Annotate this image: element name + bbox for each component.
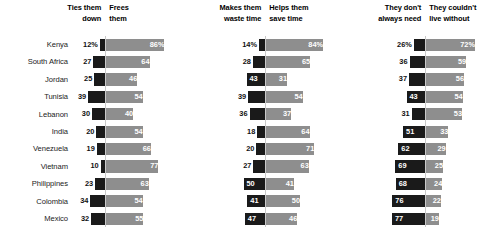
panel-time-use-row: 4331 (205, 71, 347, 88)
chart-row: Venezuela196620716229 (0, 140, 476, 157)
panel-header-left-label: Ties them down (53, 3, 105, 24)
panel-time-freedom-row: 12%86% (45, 36, 187, 53)
bar-value-left: 31 (382, 108, 413, 120)
panel-necessity-row: 5133 (365, 123, 481, 140)
panel-header-left-label: Makes them waste time (213, 3, 265, 24)
panel-header-right-label: They couldn't live without (425, 3, 481, 24)
bar-value-left: 39 (58, 91, 89, 103)
bar-value-right: 25 (426, 160, 446, 172)
panel-necessity-row: 3756 (365, 71, 481, 88)
bar-value-right: 65 (266, 56, 313, 68)
bar-value-right: 40 (106, 108, 136, 120)
bar-left-time-freedom (96, 126, 105, 138)
bar-value-right: 31 (266, 73, 290, 85)
panel-time-use-row: 2071 (205, 140, 347, 157)
bar-left-time-freedom (94, 73, 105, 85)
bar-value-right: 63 (266, 160, 312, 172)
bar-value-right: 41 (266, 178, 297, 190)
bar-value-left: 19 (67, 143, 98, 155)
panel-time-use-row: 14%84% (205, 36, 347, 53)
bar-left-time-freedom (88, 91, 105, 103)
bar-value-right: 72% (426, 39, 478, 51)
chart-row: Mexico325547467719 (0, 210, 476, 227)
bar-value-left: 68 (396, 178, 428, 190)
bar-value-right: 54 (106, 91, 146, 103)
bar-value-left: 41 (247, 195, 268, 207)
bar-value-right: 63 (106, 178, 152, 190)
bar-left-necessity (414, 39, 425, 51)
panel-time-freedom-row: 3954 (45, 88, 187, 105)
bar-value-left: 47 (245, 213, 268, 225)
bar-value-left: 43 (247, 73, 268, 85)
panel-header-time-use: Makes them waste timeHelps them save tim… (213, 3, 325, 33)
bar-value-right: 29 (426, 143, 449, 155)
panel-time-use-row: 3954 (205, 88, 347, 105)
bar-left-necessity (410, 56, 425, 68)
chart-row: Vietnam107727636925 (0, 158, 476, 175)
bar-value-right: 37 (266, 108, 294, 120)
bar-left-time-freedom (91, 213, 105, 225)
bar-value-right: 84% (266, 39, 326, 51)
bar-value-right: 77 (106, 160, 161, 172)
panel-time-use-row: 4150 (205, 193, 347, 210)
bar-value-left: 39 (218, 91, 249, 103)
bar-value-right: 71 (266, 143, 317, 155)
bar-value-right: 54 (426, 91, 466, 103)
bar-left-time-use (250, 108, 265, 120)
bar-left-time-use (253, 160, 265, 172)
panel-time-use-row: 2763 (205, 158, 347, 175)
panel-necessity-row: 7622 (365, 193, 481, 210)
bar-value-left: 10 (71, 160, 102, 172)
panel-necessity-row: 26%72% (365, 36, 481, 53)
panel-time-freedom-row: 2363 (45, 175, 187, 192)
bar-left-time-freedom (90, 195, 105, 207)
chart-header-band: Ties them downFrees themMakes them waste… (0, 0, 476, 36)
bar-left-time-freedom (97, 143, 105, 155)
panel-time-use-row: 5041 (205, 175, 347, 192)
panel-time-use-row: 4746 (205, 210, 347, 227)
bar-value-right: 22 (426, 195, 444, 207)
bar-value-left: 14% (229, 39, 260, 51)
bar-value-right: 54 (106, 126, 146, 138)
bar-left-necessity (409, 73, 425, 85)
bar-value-right: 46 (266, 213, 300, 225)
bar-left-time-use (257, 126, 265, 138)
bar-value-left: 43 (407, 91, 428, 103)
chart-row: Philippines236350416824 (0, 175, 476, 192)
panel-header-right-label: Frees them (105, 3, 165, 24)
panel-header-time-freedom: Ties them downFrees them (53, 3, 165, 33)
bar-value-left: 18 (227, 126, 258, 138)
bar-value-left: 27 (63, 56, 94, 68)
bar-value-left: 77 (392, 213, 428, 225)
bar-value-right: 19 (426, 213, 442, 225)
bar-value-right: 86% (106, 39, 167, 51)
panel-header-left-label: They don't always need (373, 3, 425, 24)
panel-header-right-label: Helps them save time (265, 3, 325, 24)
bar-left-time-use (253, 56, 265, 68)
bar-value-left: 20 (226, 143, 257, 155)
bar-value-left: 76 (392, 195, 428, 207)
chart-row: India205418645133 (0, 123, 476, 140)
chart-row: Colombia345441507622 (0, 193, 476, 210)
bar-value-left: 26% (384, 39, 415, 51)
panel-time-use-row: 2865 (205, 53, 347, 70)
bar-value-left: 20 (66, 126, 97, 138)
panel-necessity-row: 3153 (365, 106, 481, 123)
bar-left-time-freedom (93, 56, 105, 68)
bar-value-left: 30 (62, 108, 93, 120)
bar-value-right: 66 (106, 143, 154, 155)
panel-necessity-row: 3659 (365, 53, 481, 70)
bar-value-right: 46 (106, 73, 140, 85)
bar-value-left: 34 (60, 195, 91, 207)
panel-time-freedom-row: 3040 (45, 106, 187, 123)
chart-plot-area: Kenya12%86%14%84%26%72%South Africa27642… (0, 36, 476, 227)
bar-value-left: 36 (220, 108, 251, 120)
bar-value-right: 50 (266, 195, 303, 207)
bar-value-right: 56 (426, 73, 467, 85)
bar-value-right: 24 (426, 178, 445, 190)
bar-left-time-use (256, 143, 265, 155)
bar-value-left: 37 (379, 73, 410, 85)
panel-time-freedom-row: 3454 (45, 193, 187, 210)
panel-time-freedom-row: 1966 (45, 140, 187, 157)
panel-necessity-row: 6925 (365, 158, 481, 175)
